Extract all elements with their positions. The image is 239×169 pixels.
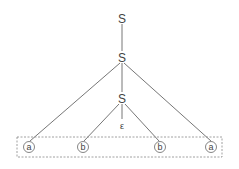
leaf-1-label: a <box>26 142 31 152</box>
leaf-4: a <box>206 142 217 153</box>
node-epsilon: ε <box>120 121 124 131</box>
leaf-2: b <box>78 142 89 153</box>
edge-s2-leaf2 <box>84 104 119 141</box>
node-s1: S <box>118 51 126 65</box>
node-s2: S <box>118 92 126 106</box>
edge-s1-leaf1 <box>30 63 120 141</box>
leaf-4-label: a <box>208 142 213 152</box>
edge-s2-leaf3 <box>125 104 159 141</box>
node-root: S <box>118 12 126 26</box>
leaf-group-box <box>17 137 222 157</box>
leaf-3-label: b <box>157 142 162 152</box>
leaf-1: a <box>24 142 35 153</box>
parse-tree-diagram: S S S ε a b b a <box>0 0 239 169</box>
edge-s1-leaf4 <box>124 63 211 141</box>
leaf-2-label: b <box>80 142 85 152</box>
leaf-3: b <box>155 142 166 153</box>
